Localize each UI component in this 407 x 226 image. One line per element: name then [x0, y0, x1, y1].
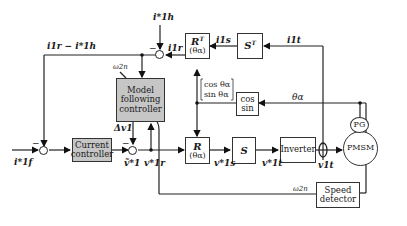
- rt-sup: T: [199, 35, 203, 42]
- r-transform-block: R (θα): [185, 137, 210, 164]
- sin-theta-label: sin θα: [204, 90, 229, 99]
- speed-detector-label: Speed detector: [317, 186, 359, 205]
- cos-sin-block: cossin: [236, 92, 259, 116]
- omega2n-top-label: ω2n: [113, 64, 128, 71]
- model-following-controller-block: Model following controller: [116, 78, 165, 122]
- pg-encoder: PG: [350, 117, 369, 133]
- r-arg: (θα): [189, 152, 205, 161]
- s-transform-block: S: [232, 137, 256, 164]
- r-main: R: [193, 141, 201, 152]
- middle-sum-minus-sign: −: [122, 139, 130, 148]
- top-sum-minus-sign: −: [149, 44, 157, 53]
- v1t-star-label: v*1t: [262, 159, 282, 168]
- delta-v1-label: Δv1: [114, 124, 132, 133]
- theta-alpha-label: θα: [292, 93, 304, 102]
- sin-label: sin: [241, 103, 254, 113]
- inverter-label: Inverter: [280, 145, 315, 154]
- current-controller-label: Current controller: [71, 141, 113, 160]
- pmsm-label: PMSM: [347, 144, 374, 153]
- v1t-label: v1t: [318, 161, 334, 170]
- s-main: S: [240, 145, 247, 156]
- current-controller-block: Current controller: [72, 138, 112, 162]
- speed-detector-block: Speed detector: [316, 182, 360, 208]
- pg-label: PG: [354, 121, 366, 130]
- v1r-star-label: v*1r: [144, 159, 165, 168]
- st-transform-block: ST: [237, 33, 263, 59]
- model-following-controller-label: Model following controller: [117, 86, 164, 114]
- i1t-label: i1t: [287, 36, 301, 45]
- left-sum-minus-sign: −: [32, 139, 40, 148]
- inverter-block: Inverter: [280, 137, 316, 163]
- cos-sin-vector-label: cos θα sin θα: [204, 80, 230, 99]
- rt-arg: (θα): [189, 47, 205, 56]
- rt-transform-block: RT (θα): [185, 33, 210, 59]
- i1r-minus-i1h-label: i1r − i*1h: [47, 42, 96, 51]
- i1f-star-label: i*1f: [14, 158, 32, 167]
- i1s-label: i1s: [216, 36, 231, 45]
- i1r-label: i1r: [168, 44, 182, 53]
- st-sup: T: [251, 39, 255, 46]
- left-summing-junction: [39, 146, 48, 155]
- i1h-star-label: i*1h: [153, 13, 174, 22]
- v1-tilde-star-label: ṽ*1: [124, 159, 140, 168]
- cos-theta-label: cos θα: [204, 80, 230, 89]
- v1s-star-label: v*1s: [214, 159, 235, 168]
- pmsm-motor: PMSM: [343, 131, 378, 166]
- omega2n-bottom-label: ω2n: [293, 186, 308, 193]
